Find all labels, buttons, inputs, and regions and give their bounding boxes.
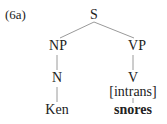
edge-s-np — [60, 22, 94, 38]
node-n: N — [52, 71, 62, 85]
node-v: V — [128, 71, 138, 85]
node-vp: VP — [128, 39, 146, 53]
node-np: NP — [49, 39, 67, 53]
edge-s-vp — [94, 22, 134, 38]
leaf-snores: snores — [114, 103, 152, 117]
leaf-ken: Ken — [45, 103, 68, 117]
feature-intrans: [intrans] — [109, 85, 156, 99]
node-s: S — [90, 8, 98, 22]
